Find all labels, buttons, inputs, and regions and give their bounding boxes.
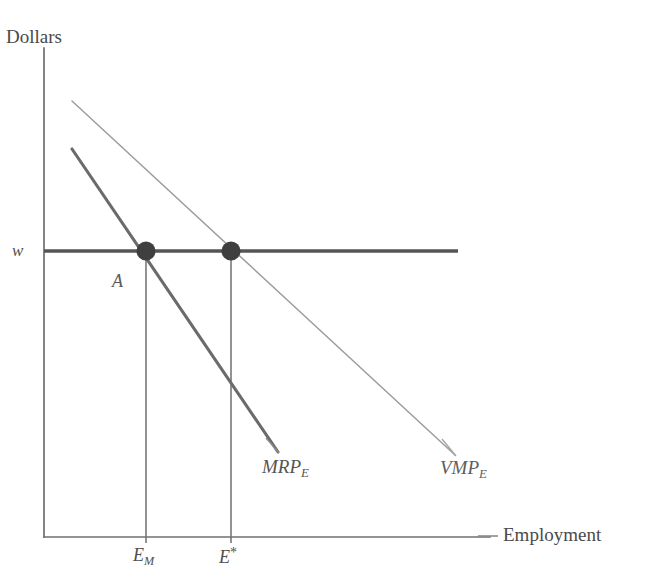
point-a-label: A <box>112 272 123 290</box>
tick-label-em-base: E <box>133 545 144 565</box>
mrp-label-leader <box>266 438 279 453</box>
vmp-curve-label-base: VMP <box>440 457 479 478</box>
tick-label-e-star: E* <box>219 545 237 566</box>
drop-lines-group <box>146 251 231 537</box>
tick-label-e-star-base: E <box>219 547 230 567</box>
tick-label-e-star-superscript: * <box>230 544 237 560</box>
wage-axis-label: w <box>12 242 23 259</box>
point-a-marker <box>137 242 156 261</box>
vmp-curve-label: VMPE <box>440 458 487 481</box>
diagram-graphic <box>0 0 658 580</box>
mrp-curve-label: MRPE <box>262 457 309 480</box>
mrp-curve-label-base: MRP <box>262 456 301 477</box>
figure-canvas: Dollars Employment w A MRPE VMPE EM E* <box>0 0 658 580</box>
mrp-curve <box>72 149 278 452</box>
vmp-curve-label-subscript: E <box>479 466 487 481</box>
tick-label-em-subscript: M <box>144 554 154 568</box>
point-e-star-marker <box>222 242 241 261</box>
x-axis-label: Employment <box>503 525 601 544</box>
curve-label-leaders-group <box>266 438 456 456</box>
tick-label-em: EM <box>133 546 154 567</box>
y-axis-label: Dollars <box>6 27 62 46</box>
vmp-label-leader <box>442 439 456 456</box>
vmp-curve <box>72 101 455 455</box>
x-axis-ticks-group <box>146 537 231 543</box>
mrp-curve-label-subscript: E <box>301 465 309 480</box>
